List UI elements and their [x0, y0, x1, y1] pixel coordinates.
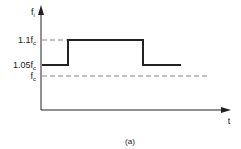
y-axis-arrow-icon	[38, 5, 44, 15]
y-axis-label: fi	[31, 7, 35, 18]
x-axis-arrow-icon	[221, 107, 231, 113]
level-label-1.05fc: 1.05fc	[13, 60, 36, 71]
x-axis-label: t	[228, 116, 231, 126]
level-label-fc: fc	[30, 71, 36, 82]
frequency-step-signal	[42, 40, 181, 65]
frequency-step-diagram: fi 1.1fc 1.05fc fc t (a)	[0, 0, 241, 149]
level-label-1.1fc: 1.1fc	[18, 35, 36, 46]
caption: (a)	[125, 137, 135, 146]
